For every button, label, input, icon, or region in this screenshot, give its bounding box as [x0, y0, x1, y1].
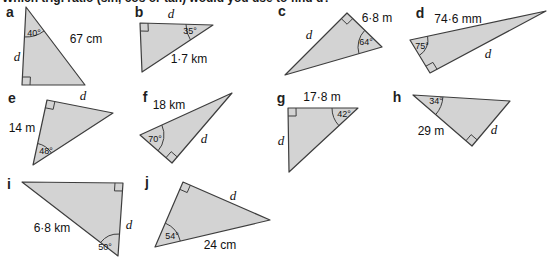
triangle-d-angle-label: 75°: [415, 41, 429, 51]
textbook-page: Which trig. ratio (sin, cos or tan) woul…: [0, 0, 548, 258]
triangle-c-side-label-1: d: [306, 27, 313, 42]
triangle-h-side-label-0: 29 m: [418, 124, 445, 138]
triangle-g-side-label-0: 17·8 m: [303, 90, 340, 104]
triangle-j-side-label-0: 24 cm: [204, 238, 237, 252]
triangle-g-side-label-1: d: [278, 133, 285, 148]
part-letter-g: g: [277, 90, 286, 106]
part-letter-e: e: [8, 90, 16, 106]
triangle-a-angle-label: 40°: [27, 28, 41, 38]
part-letter-b: b: [135, 4, 144, 20]
triangle-c-angle-label: 64°: [359, 37, 373, 47]
triangle-f-side-label-1: d: [201, 131, 208, 146]
triangle-e-angle-label: 48°: [39, 146, 53, 156]
triangle-f-angle-label: 70°: [148, 134, 162, 144]
part-letter-i: i: [7, 176, 11, 192]
triangle-b-angle-label: 35°: [183, 26, 197, 36]
triangle-c-side-label-0: 6·8 m: [362, 11, 393, 25]
triangle-h-angle-label: 34°: [429, 96, 443, 106]
triangle-b-side-label-1: 1·7 km: [171, 52, 208, 66]
triangle-g-angle-label: 42°: [337, 109, 351, 119]
triangle-d-side-label-0: 74·6 mm: [434, 12, 481, 26]
triangle-j-side-label-1: d: [230, 188, 237, 203]
part-letter-c: c: [278, 3, 286, 19]
triangle-e-side-label-1: d: [80, 88, 87, 103]
triangle-f-side-label-0: 18 km: [153, 98, 186, 112]
triangle-i-side-label-0: 6·8 km: [34, 221, 71, 235]
triangle-i-angle-label: 50°: [98, 242, 112, 252]
part-letter-j: j: [144, 174, 149, 190]
part-letter-d: d: [416, 5, 425, 21]
part-letter-a: a: [6, 4, 14, 20]
triangles-figure: 40°67 cmda35°d1·7 kmb64°6·8 mdc75°74·6 m…: [0, 0, 548, 258]
part-letter-f: f: [143, 89, 148, 105]
triangle-h-shape: [413, 95, 510, 146]
triangle-d-side-label-1: d: [485, 46, 492, 61]
triangle-h-side-label-1: d: [491, 122, 498, 137]
triangle-j-angle-label: 54°: [165, 231, 179, 241]
triangle-b-side-label-0: d: [168, 6, 175, 21]
triangle-i-side-label-1: d: [126, 217, 133, 232]
part-letter-h: h: [393, 89, 402, 105]
triangle-a-side-label-1: d: [14, 49, 21, 64]
triangle-e-side-label-0: 14 m: [9, 121, 36, 135]
triangle-a-side-label-0: 67 cm: [70, 32, 103, 46]
